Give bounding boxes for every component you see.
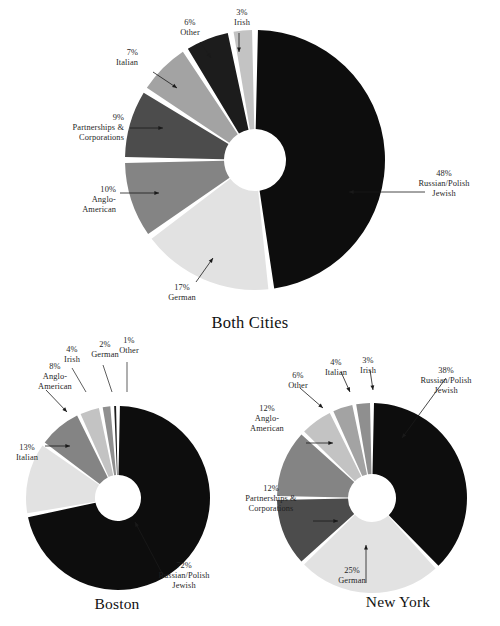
label-both-partnerships-l1: Partnerships &	[28, 123, 124, 133]
label-both-partnerships: 9% Partnerships & Corporations	[28, 113, 124, 144]
label-ny-partnerships-l2: Corporations	[233, 504, 309, 514]
label-ny-italian-name: Italian	[317, 368, 355, 378]
label-both-anglo-l1: Anglo-	[42, 195, 116, 205]
label-both-anglo-pct: 10%	[42, 185, 116, 195]
label-boston-other: 1% Other	[113, 336, 145, 356]
label-ny-other-pct: 6%	[279, 371, 317, 381]
label-both-german: 17% German	[152, 283, 212, 303]
label-both-anglo-l2: American	[42, 205, 116, 215]
label-ny-partnerships-pct: 12%	[233, 484, 309, 494]
label-ny-italian: 4% Italian	[317, 358, 355, 378]
label-boston-other-name: Other	[113, 346, 145, 356]
label-both-italian-name: Italian	[60, 58, 138, 68]
label-ny-anglo-l2: American	[236, 424, 298, 434]
label-ny-irish-pct: 3%	[352, 356, 384, 366]
label-ny-italian-pct: 4%	[317, 358, 355, 368]
label-both-italian: 7% Italian	[60, 48, 138, 68]
label-both-german-name: German	[152, 293, 212, 303]
title-boston: Boston	[62, 595, 172, 613]
label-ny-anglo-l1: Anglo-	[236, 414, 298, 424]
label-boston-russian-pct: 72%	[136, 561, 232, 571]
label-ny-russian: 38% Russian/Polish Jewish	[398, 366, 494, 397]
label-boston-other-pct: 1%	[113, 336, 145, 346]
label-ny-german: 25% German	[328, 566, 376, 586]
label-boston-anglo-l1: Anglo-	[24, 372, 86, 382]
label-both-italian-pct: 7%	[60, 48, 138, 58]
label-both-irish: 3% Irish	[218, 8, 266, 28]
label-both-irish-pct: 3%	[218, 8, 266, 18]
label-boston-anglo: 8% Anglo- American	[24, 362, 86, 393]
title-new-york: New York	[328, 593, 468, 611]
label-boston-italian-pct: 13%	[6, 443, 48, 453]
label-both-german-pct: 17%	[152, 283, 212, 293]
label-ny-partnerships: 12% Partnerships & Corporations	[233, 484, 309, 515]
label-ny-german-pct: 25%	[328, 566, 376, 576]
label-boston-anglo-l2: American	[24, 382, 86, 392]
label-both-russian-l1: Russian/Polish	[396, 179, 492, 189]
label-both-russian-pct: 48%	[396, 169, 492, 179]
label-boston-russian-l1: Russian/Polish	[136, 571, 232, 581]
label-ny-irish: 3% Irish	[352, 356, 384, 376]
label-ny-russian-l2: Jewish	[398, 386, 494, 396]
label-both-other-name: Other	[162, 28, 218, 38]
label-ny-german-name: German	[328, 576, 376, 586]
label-both-other: 6% Other	[162, 18, 218, 38]
label-both-irish-name: Irish	[218, 18, 266, 28]
label-both-other-pct: 6%	[162, 18, 218, 28]
label-both-russian: 48% Russian/Polish Jewish	[396, 169, 492, 200]
label-ny-irish-name: Irish	[352, 366, 384, 376]
label-ny-russian-l1: Russian/Polish	[398, 376, 494, 386]
label-ny-partnerships-l1: Partnerships &	[233, 494, 309, 504]
label-both-partnerships-l2: Corporations	[28, 133, 124, 143]
label-both-partnerships-pct: 9%	[28, 113, 124, 123]
label-boston-russian: 72% Russian/Polish Jewish	[136, 561, 232, 592]
label-boston-italian: 13% Italian	[6, 443, 48, 463]
label-ny-anglo-pct: 12%	[236, 404, 298, 414]
label-both-anglo: 10% Anglo- American	[42, 185, 116, 216]
label-ny-other-name: Other	[279, 381, 317, 391]
label-boston-russian-l2: Jewish	[136, 581, 232, 591]
label-ny-other: 6% Other	[279, 371, 317, 391]
label-ny-anglo: 12% Anglo- American	[236, 404, 298, 435]
label-ny-russian-pct: 38%	[398, 366, 494, 376]
label-boston-italian-name: Italian	[6, 453, 48, 463]
label-both-russian-l2: Jewish	[396, 189, 492, 199]
